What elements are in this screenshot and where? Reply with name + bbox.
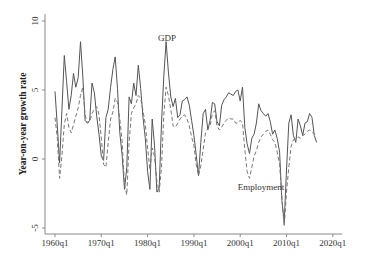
y-axis-title: Year-on-year growth rate (18, 73, 28, 176)
y-tick-label: 5 (30, 87, 40, 92)
gdp-annotation: GDP (158, 33, 176, 43)
line-chart: -50510 1960q11970q11980q11990q12000q1201… (0, 0, 366, 259)
y-tick-label: 10 (30, 16, 40, 26)
x-tick-label: 2020q1 (319, 238, 346, 248)
x-tick-label: 1990q1 (180, 238, 207, 248)
y-tick-label: 0 (30, 156, 40, 161)
y-tick-label: -5 (30, 224, 40, 232)
x-tick-label: 2010q1 (273, 238, 300, 248)
x-tick-label: 1970q1 (88, 238, 115, 248)
chart-background (0, 0, 366, 259)
x-tick-label: 2000q1 (227, 238, 254, 248)
employment-annotation: Employment (238, 182, 285, 192)
x-tick-label: 1960q1 (42, 238, 69, 248)
x-tick-label: 1980q1 (134, 238, 161, 248)
